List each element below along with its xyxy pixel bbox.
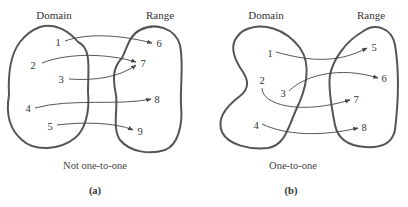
sublabel-a: (a) [89,185,101,196]
range-set-a [114,26,182,152]
arrow-1-to-5 [276,48,367,59]
range-label-a: Range [146,9,174,21]
range-element-a-7: 7 [140,58,145,69]
caption-b: One-to-one [269,160,317,171]
arrow-5-to-9 [57,123,133,130]
arrow-3-to-6 [289,72,378,91]
domain-element-a-5: 5 [47,121,52,132]
domain-element-a-1: 1 [55,37,60,48]
domain-element-b-3: 3 [280,88,285,99]
domain-element-a-2: 2 [30,60,35,71]
range-element-a-6: 6 [156,38,161,49]
domain-element-a-3: 3 [58,74,63,85]
arrow-3-to-7 [69,65,136,79]
range-element-b-5: 5 [371,42,376,53]
diagram-canvas [0,0,408,207]
domain-set-b [220,27,306,149]
arrow-4-to-8 [262,124,358,134]
caption-a: Not one-to-one [63,160,127,171]
domain-element-b-1: 1 [267,48,272,59]
domain-element-b-4: 4 [253,120,258,131]
domain-element-a-4: 4 [25,103,30,114]
range-element-b-6: 6 [381,73,386,84]
sublabel-b: (b) [285,185,298,196]
domain-label-b: Domain [248,9,283,21]
range-element-b-8: 8 [361,122,366,133]
domain-element-b-2: 2 [259,75,264,86]
range-element-a-8: 8 [154,94,159,105]
arrow-2-to-7 [262,88,350,107]
range-element-b-7: 7 [353,94,358,105]
range-label-b: Range [357,9,385,21]
range-element-a-9: 9 [137,126,142,137]
arrow-4-to-8 [35,99,151,108]
domain-label-a: Domain [36,9,71,21]
